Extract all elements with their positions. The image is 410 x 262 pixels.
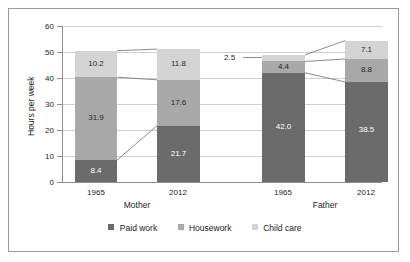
ytick-label-0: 0 xyxy=(32,178,54,187)
legend-label-paid-work: Paid work xyxy=(120,223,157,233)
segment-label-child-care: 10.2 xyxy=(75,60,117,68)
group-label-mother: Mother xyxy=(112,200,162,210)
y-axis-title: Hours per week xyxy=(26,76,36,136)
ytick-mark-10 xyxy=(57,156,62,157)
legend-swatch-icon xyxy=(252,224,258,230)
chart-plot-area: 60 50 40 30 20 10 0 Hours per week 10.2 … xyxy=(0,0,410,262)
segment-paid-work[interactable]: 38.5 xyxy=(345,82,388,182)
segment-label-housework: 31.9 xyxy=(75,114,117,122)
group-label-father: Father xyxy=(300,200,350,210)
ytick-mark-50 xyxy=(57,52,62,53)
bar-father-2012[interactable]: 7.1 8.8 38.5 xyxy=(345,41,388,182)
segment-label-paid-work: 21.7 xyxy=(157,150,200,158)
legend-label-housework: Housework xyxy=(189,223,232,233)
segment-housework[interactable]: 31.9 xyxy=(75,77,117,160)
y-axis-line xyxy=(62,26,63,183)
xtick-label-mother-1965: 1965 xyxy=(71,188,121,197)
segment-label-child-care: 11.8 xyxy=(157,60,200,68)
legend-swatch-icon xyxy=(108,224,114,230)
ytick-label-10: 10 xyxy=(32,152,54,161)
xtick-label-father-2012: 2012 xyxy=(341,188,391,197)
segment-label-child-care: 7.1 xyxy=(345,46,388,54)
segment-label-housework: 17.6 xyxy=(157,99,200,107)
segment-housework[interactable]: 17.6 xyxy=(157,80,200,126)
segment-label-paid-work: 38.5 xyxy=(345,126,388,134)
segment-housework[interactable]: 8.8 xyxy=(345,59,388,82)
segment-label-housework: 4.4 xyxy=(262,63,305,71)
segment-housework[interactable]: 4.4 xyxy=(262,61,305,72)
bar-mother-2012[interactable]: 11.8 17.6 21.7 xyxy=(157,49,200,182)
ytick-mark-20 xyxy=(57,130,62,131)
segment-paid-work[interactable]: 42.0 xyxy=(262,73,305,182)
ytick-mark-0 xyxy=(57,182,62,183)
legend-label-child-care: Child care xyxy=(263,223,301,233)
segment-label-housework: 8.8 xyxy=(345,66,388,74)
legend-swatch-icon xyxy=(178,224,184,230)
ytick-mark-40 xyxy=(57,78,62,79)
legend-item-child-care[interactable]: Child care xyxy=(252,222,302,233)
ytick-mark-60 xyxy=(57,26,62,27)
xtick-label-mother-2012: 2012 xyxy=(153,188,203,197)
x-axis-baseline xyxy=(62,182,382,183)
chart-legend: Paid work Housework Child care xyxy=(0,222,410,233)
bar-mother-1965[interactable]: 10.2 31.9 8.4 xyxy=(75,51,117,182)
segment-paid-work[interactable]: 21.7 xyxy=(157,126,200,182)
segment-child-care[interactable]: 7.1 xyxy=(345,41,388,59)
legend-item-paid-work[interactable]: Paid work xyxy=(108,222,157,233)
segment-paid-work[interactable]: 8.4 xyxy=(75,160,117,182)
bar-father-1965[interactable]: 4.4 42.0 xyxy=(262,55,305,182)
ytick-label-60: 60 xyxy=(32,22,54,31)
segment-label-paid-work: 42.0 xyxy=(262,123,305,131)
segment-child-care[interactable]: 11.8 xyxy=(157,49,200,80)
gridline-60 xyxy=(62,26,382,27)
segment-label-child-care-father-1965: 2.5 xyxy=(224,53,235,62)
ytick-label-50: 50 xyxy=(32,48,54,57)
segment-child-care[interactable]: 10.2 xyxy=(75,51,117,78)
segment-label-paid-work: 8.4 xyxy=(75,167,117,175)
ytick-mark-30 xyxy=(57,104,62,105)
legend-item-housework[interactable]: Housework xyxy=(178,222,232,233)
xtick-label-father-1965: 1965 xyxy=(258,188,308,197)
